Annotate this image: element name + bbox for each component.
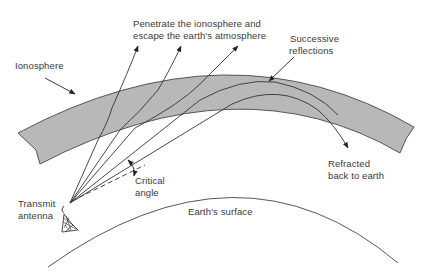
label-critical-line1: Critical [135,175,165,186]
label-successive-line1: Successive [290,33,339,44]
label-ionosphere: Ionosphere [15,60,64,71]
label-refracted-line2: back to earth [328,170,384,181]
label-earth-surface: Earth's surface [188,206,253,217]
label-transmit-line1: Transmit [18,198,55,209]
successive-leader-arrow [269,57,294,81]
propagation-diagram [0,0,423,275]
label-penetrate-line2: escape the earth's atmosphere [133,30,266,41]
critical-angle-arc [128,160,134,176]
label-transmit-line2: antenna [18,210,53,221]
transmit-antenna-icon [62,206,78,232]
label-refracted-line1: Refracted [328,158,370,169]
ionosphere-leader-arrow [45,78,75,94]
label-penetrate-line1: Penetrate the ionosphere and [133,18,261,29]
label-critical-line2: angle [135,187,159,198]
ionosphere-band [18,75,414,164]
label-successive-line2: reflections [289,45,333,56]
